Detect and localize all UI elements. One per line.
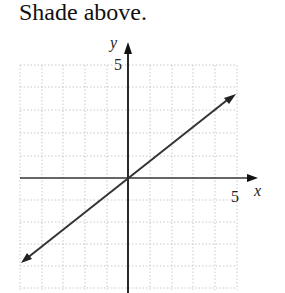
arrow-head-upper-icon	[224, 94, 236, 104]
coordinate-graph: y 5 x 5	[0, 0, 285, 293]
y-axis-label: y	[108, 34, 118, 52]
y-tick-label: 5	[114, 56, 122, 73]
x-axis-label: x	[253, 182, 261, 199]
y-axis	[124, 42, 132, 293]
x-axis	[20, 174, 258, 182]
x-tick-label: 5	[231, 188, 239, 205]
